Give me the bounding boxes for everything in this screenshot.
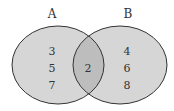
set-a-element: 5 [49,62,56,75]
set-b-element: 8 [124,79,131,92]
set-a-element: 3 [49,45,56,58]
intersection-element: 2 [85,62,92,75]
set-b-element: 4 [124,45,131,58]
set-b-label: B [124,7,133,21]
set-b-element: 6 [124,62,131,75]
venn-diagram: A B 3 5 7 2 4 6 8 [0,0,174,111]
set-a-label: A [47,7,57,21]
set-a-element: 7 [49,79,56,92]
